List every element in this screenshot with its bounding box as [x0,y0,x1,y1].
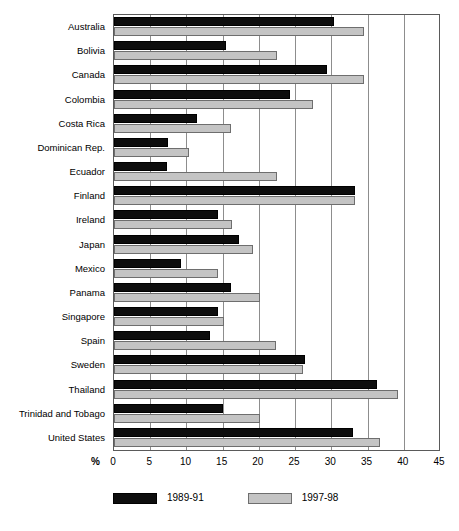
bar-group [114,112,440,136]
bar-1989-91 [114,65,327,74]
bar-1989-91 [114,210,218,219]
bar-1989-91 [114,114,197,123]
bar-1997-98 [114,390,398,399]
bar-1989-91 [114,235,239,244]
category-label: Dominican Rep. [37,142,105,153]
bar-group [114,329,440,353]
bar-1989-91 [114,331,210,340]
x-tick-label: 25 [289,455,300,468]
legend-swatch-icon [248,493,292,504]
bar-1989-91 [114,307,218,316]
bar-group [114,88,440,112]
bar-1997-98 [114,245,253,254]
category-label: Bolivia [77,45,105,56]
bar-1989-91 [114,90,290,99]
bar-group [114,402,440,426]
bar-group [114,233,440,257]
category-label: United States [48,432,105,443]
category-label: Thailand [69,384,105,395]
category-label: Singapore [62,311,105,322]
category-label: Ecuador [70,166,105,177]
category-label: Panama [70,287,105,298]
bar-1997-98 [114,293,260,302]
bar-1989-91 [114,428,353,437]
bar-group [114,63,440,87]
bar-1989-91 [114,41,226,50]
bar-1989-91 [114,162,167,171]
bar-1997-98 [114,172,277,181]
category-label: Sweden [71,359,105,370]
bar-group [114,257,440,281]
bar-1997-98 [114,75,364,84]
category-label: Mexico [75,263,105,274]
bar-group [114,136,440,160]
bar-1997-98 [114,51,277,60]
bar-1989-91 [114,404,223,413]
bar-1997-98 [114,220,232,229]
bar-group [114,160,440,184]
legend-label: 1989-91 [167,492,204,504]
legend-label: 1997-98 [302,492,339,504]
category-label: Canada [72,69,105,80]
bar-group [114,305,440,329]
bar-1997-98 [114,27,364,36]
bar-1989-91 [114,380,377,389]
bar-group [114,426,440,450]
category-label: Australia [68,21,105,32]
category-label: Costa Rica [59,118,105,129]
chart-legend: 1989-911997-98 [113,489,338,507]
x-axis-tick-labels: 051015202530354045 [0,455,459,471]
category-label: Colombia [65,94,105,105]
legend-item: 1997-98 [248,492,339,504]
bar-1989-91 [114,355,305,364]
bar-1997-98 [114,317,224,326]
bar-1997-98 [114,100,313,109]
bar-rows [114,15,440,450]
bar-1989-91 [114,138,168,147]
x-tick-label: 40 [397,455,408,468]
legend-swatch-icon [113,493,157,504]
bar-1997-98 [114,269,218,278]
bar-1989-91 [114,186,355,195]
x-tick-label: 0 [110,455,116,468]
x-tick-label: 45 [433,455,444,468]
bar-group [114,378,440,402]
bar-group [114,15,440,39]
bar-group [114,353,440,377]
bar-1997-98 [114,438,380,447]
bar-1997-98 [114,414,260,423]
bar-group [114,208,440,232]
bar-1989-91 [114,17,334,26]
category-label: Finland [74,190,105,201]
x-tick-label: 15 [216,455,227,468]
bar-group [114,184,440,208]
bar-1997-98 [114,124,231,133]
bar-1989-91 [114,283,231,292]
bar-1997-98 [114,148,189,157]
x-tick-label: 10 [180,455,191,468]
bar-group [114,39,440,63]
category-axis-labels: AustraliaBoliviaCanadaColombiaCosta Rica… [0,15,110,450]
bar-chart: AustraliaBoliviaCanadaColombiaCosta Rica… [0,0,459,531]
bar-group [114,281,440,305]
bar-1997-98 [114,341,276,350]
x-tick-label: 35 [361,455,372,468]
bar-1989-91 [114,259,181,268]
bar-1997-98 [114,365,303,374]
category-label: Spain [81,335,105,346]
x-tick-label: 5 [146,455,152,468]
category-label: Ireland [76,214,105,225]
bar-1997-98 [114,196,355,205]
category-label: Trinidad and Tobago [19,408,105,419]
x-tick-label: 30 [325,455,336,468]
category-label: Japan [79,239,105,250]
legend-item: 1989-91 [113,492,204,504]
x-tick-label: 20 [252,455,263,468]
